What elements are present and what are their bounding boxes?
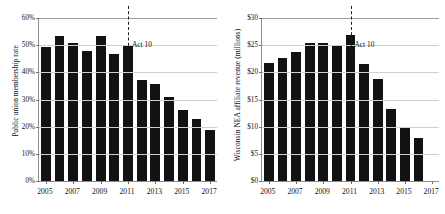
bar bbox=[305, 43, 315, 181]
y-axis-tick-mark bbox=[259, 127, 262, 128]
y-axis-tick-mark bbox=[259, 181, 262, 182]
x-axis-tick-labels-right: 2005200720092011201320152017 bbox=[261, 186, 438, 198]
x-axis-tick-label: 2005 bbox=[37, 186, 52, 198]
x-axis-tick-label: 2011 bbox=[120, 186, 135, 198]
y-axis-tick-label: $10 bbox=[232, 123, 258, 131]
bar bbox=[386, 109, 396, 181]
y-axis-tick-mark bbox=[36, 181, 39, 182]
bar bbox=[332, 45, 342, 181]
y-axis-tick-label: $30 bbox=[232, 14, 258, 22]
two-panel-bar-chart-figure: Public union membership rate 0%10%20%30%… bbox=[0, 0, 445, 214]
bar bbox=[178, 110, 188, 181]
y-axis-tick-mark bbox=[259, 100, 262, 101]
chart-panel-nea-affiliate-revenue: Wisconsin NEA affiliate revenue (million… bbox=[222, 0, 445, 214]
bar bbox=[291, 52, 301, 181]
chart-panel-public-union-membership: Public union membership rate 0%10%20%30%… bbox=[0, 0, 222, 214]
y-axis-tick-mark bbox=[36, 72, 39, 73]
y-axis-tick-mark bbox=[36, 127, 39, 128]
bar bbox=[123, 45, 133, 181]
bar bbox=[96, 36, 106, 181]
y-axis-tick-label: 0% bbox=[9, 177, 35, 185]
gridline bbox=[262, 72, 439, 73]
y-axis-tick-labels-right: $0$5$10$15$20$25$30 bbox=[232, 0, 258, 214]
x-axis-tick-label: 2005 bbox=[260, 186, 275, 198]
gridline bbox=[39, 154, 217, 155]
gridline bbox=[262, 154, 439, 155]
x-axis-tick-mark bbox=[210, 181, 211, 184]
y-axis-tick-mark bbox=[259, 72, 262, 73]
x-axis-tick-label: 2017 bbox=[202, 186, 217, 198]
y-axis-tick-mark bbox=[259, 18, 262, 19]
x-axis-tick-label: 2007 bbox=[65, 186, 80, 198]
bar bbox=[346, 35, 356, 181]
gridline bbox=[262, 100, 439, 101]
x-axis-tick-mark bbox=[46, 181, 47, 184]
x-axis-tick-label: 2015 bbox=[396, 186, 411, 198]
bar bbox=[278, 58, 288, 181]
act-10-annotation-label: Act 10 bbox=[132, 40, 152, 49]
bar bbox=[205, 130, 215, 181]
y-axis-tick-label: 10% bbox=[9, 150, 35, 158]
gridline bbox=[39, 127, 217, 128]
plot-area-left: Act 10 bbox=[38, 18, 217, 182]
x-axis-tick-label: 2007 bbox=[287, 186, 302, 198]
bar bbox=[55, 36, 65, 181]
x-axis-tick-mark bbox=[128, 181, 129, 184]
x-axis-tick-mark bbox=[269, 181, 270, 184]
bar bbox=[137, 80, 147, 181]
x-axis-tick-mark bbox=[73, 181, 74, 184]
x-axis-tick-mark bbox=[432, 181, 433, 184]
x-axis-tick-mark bbox=[101, 181, 102, 184]
y-axis-tick-mark bbox=[36, 45, 39, 46]
bar bbox=[164, 97, 174, 181]
gridline bbox=[39, 100, 217, 101]
bar bbox=[373, 79, 383, 181]
x-axis-tick-mark bbox=[155, 181, 156, 184]
gridline bbox=[262, 127, 439, 128]
x-axis-tick-mark bbox=[351, 181, 352, 184]
y-axis-tick-label: 20% bbox=[9, 123, 35, 131]
x-axis-tick-mark bbox=[183, 181, 184, 184]
y-axis-tick-mark bbox=[36, 154, 39, 155]
y-axis-tick-label: $5 bbox=[232, 150, 258, 158]
x-axis-tick-label: 2013 bbox=[369, 186, 384, 198]
y-axis-tick-label: $20 bbox=[232, 68, 258, 76]
y-axis-tick-mark bbox=[36, 18, 39, 19]
y-axis-tick-label: $25 bbox=[232, 41, 258, 49]
y-axis-tick-label: 50% bbox=[9, 41, 35, 49]
bar bbox=[264, 63, 274, 181]
bar bbox=[318, 43, 328, 181]
y-axis-tick-label: $15 bbox=[232, 96, 258, 104]
x-axis-tick-label: 2011 bbox=[342, 186, 357, 198]
y-axis-tick-mark bbox=[259, 45, 262, 46]
bar bbox=[359, 64, 369, 181]
y-axis-tick-label: $0 bbox=[232, 177, 258, 185]
bar bbox=[41, 47, 51, 181]
y-axis-tick-label: 40% bbox=[9, 68, 35, 76]
x-axis-tick-mark bbox=[405, 181, 406, 184]
act-10-reference-line bbox=[128, 6, 129, 51]
x-axis-tick-label: 2009 bbox=[315, 186, 330, 198]
bar bbox=[192, 119, 202, 181]
gridline bbox=[39, 72, 217, 73]
y-axis-tick-mark bbox=[259, 154, 262, 155]
bar bbox=[414, 138, 424, 181]
y-axis-tick-label: 60% bbox=[9, 14, 35, 22]
bar bbox=[68, 43, 78, 181]
x-axis-tick-mark bbox=[296, 181, 297, 184]
x-axis-tick-label: 2009 bbox=[92, 186, 107, 198]
x-axis-tick-label: 2017 bbox=[424, 186, 439, 198]
x-axis-tick-label: 2013 bbox=[147, 186, 162, 198]
bar bbox=[109, 54, 119, 181]
x-axis-tick-mark bbox=[378, 181, 379, 184]
y-axis-tick-labels-left: 0%10%20%30%40%50%60% bbox=[9, 0, 35, 214]
plot-area-right: Act 10 bbox=[261, 18, 439, 182]
act-10-reference-line bbox=[351, 6, 352, 51]
x-axis-tick-labels-left: 2005200720092011201320152017 bbox=[38, 186, 216, 198]
x-axis-tick-label: 2015 bbox=[174, 186, 189, 198]
bar bbox=[82, 51, 92, 181]
act-10-annotation-label: Act 10 bbox=[355, 40, 375, 49]
bar bbox=[150, 84, 160, 181]
y-axis-tick-label: 30% bbox=[9, 96, 35, 104]
y-axis-tick-mark bbox=[36, 100, 39, 101]
